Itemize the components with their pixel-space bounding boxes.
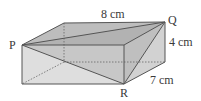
- vertex-p-label: P: [9, 38, 16, 52]
- vertex-r-label: R: [120, 86, 128, 100]
- width-label: 7 cm: [150, 73, 174, 87]
- length-label: 8 cm: [101, 7, 125, 21]
- height-label: 4 cm: [169, 35, 193, 49]
- cuboid-diagram: 8 cm Q 4 cm P 7 cm R: [0, 0, 201, 101]
- vertex-q-label: Q: [168, 13, 177, 27]
